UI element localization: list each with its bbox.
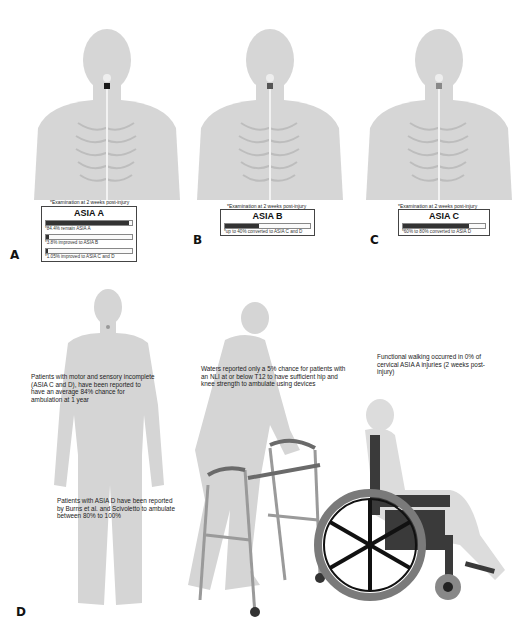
- asia-c-stat-1: *60% to 80% converted to ASIA D: [402, 229, 486, 235]
- asia-a-bar-2: [45, 234, 133, 240]
- torso-figure-a: [18, 8, 183, 200]
- asia-c-bar-1: [402, 223, 486, 229]
- asia-b-title: ASIA B: [224, 211, 311, 221]
- asia-a-stat-3: *1.05% improved to ASIA C and D: [45, 254, 133, 260]
- standing-figure: [30, 285, 180, 615]
- asia-b-stat-1: *up to 40% converted to ASIA C and D: [224, 229, 311, 235]
- note-waters-t12: Waters reported only a 5% chance for pat…: [201, 365, 353, 388]
- asia-b-bar-1: [224, 223, 311, 229]
- asia-b-box: ASIA B *up to 40% converted to ASIA C an…: [220, 209, 315, 236]
- note-functional-walking: Functional walking occurred in 0% of cer…: [377, 353, 487, 376]
- asia-a-bar-3: [45, 248, 133, 254]
- wheelchair-figure: [310, 395, 520, 605]
- asia-a-stat-1: *84.4% remain ASIA A: [45, 226, 133, 232]
- torso-figure-c: [352, 8, 517, 200]
- asia-a-box: ASIA A *84.4% remain ASIA A *3.8% improv…: [41, 206, 137, 262]
- panel-label-b: B: [193, 233, 202, 247]
- exam-caption-a: *Examination at 2 weeks post-injury: [50, 199, 129, 205]
- note-asia-d-ambulation: Patients with ASIA D have been reported …: [57, 497, 175, 520]
- panel-label-c: C: [370, 233, 379, 247]
- asia-a-stat-2: *3.8% improved to ASIA B: [45, 240, 133, 246]
- note-incomplete-ambulation: Patients with motor and sensory incomple…: [31, 373, 156, 403]
- asia-c-title: ASIA C: [402, 211, 486, 221]
- torso-figure-b: [183, 8, 348, 200]
- panel-label-a: A: [10, 248, 19, 262]
- asia-a-title: ASIA A: [45, 208, 133, 218]
- panel-label-d: D: [16, 605, 26, 619]
- asia-a-bar-1: [45, 220, 133, 226]
- asia-c-box: ASIA C *60% to 80% converted to ASIA D: [398, 209, 490, 236]
